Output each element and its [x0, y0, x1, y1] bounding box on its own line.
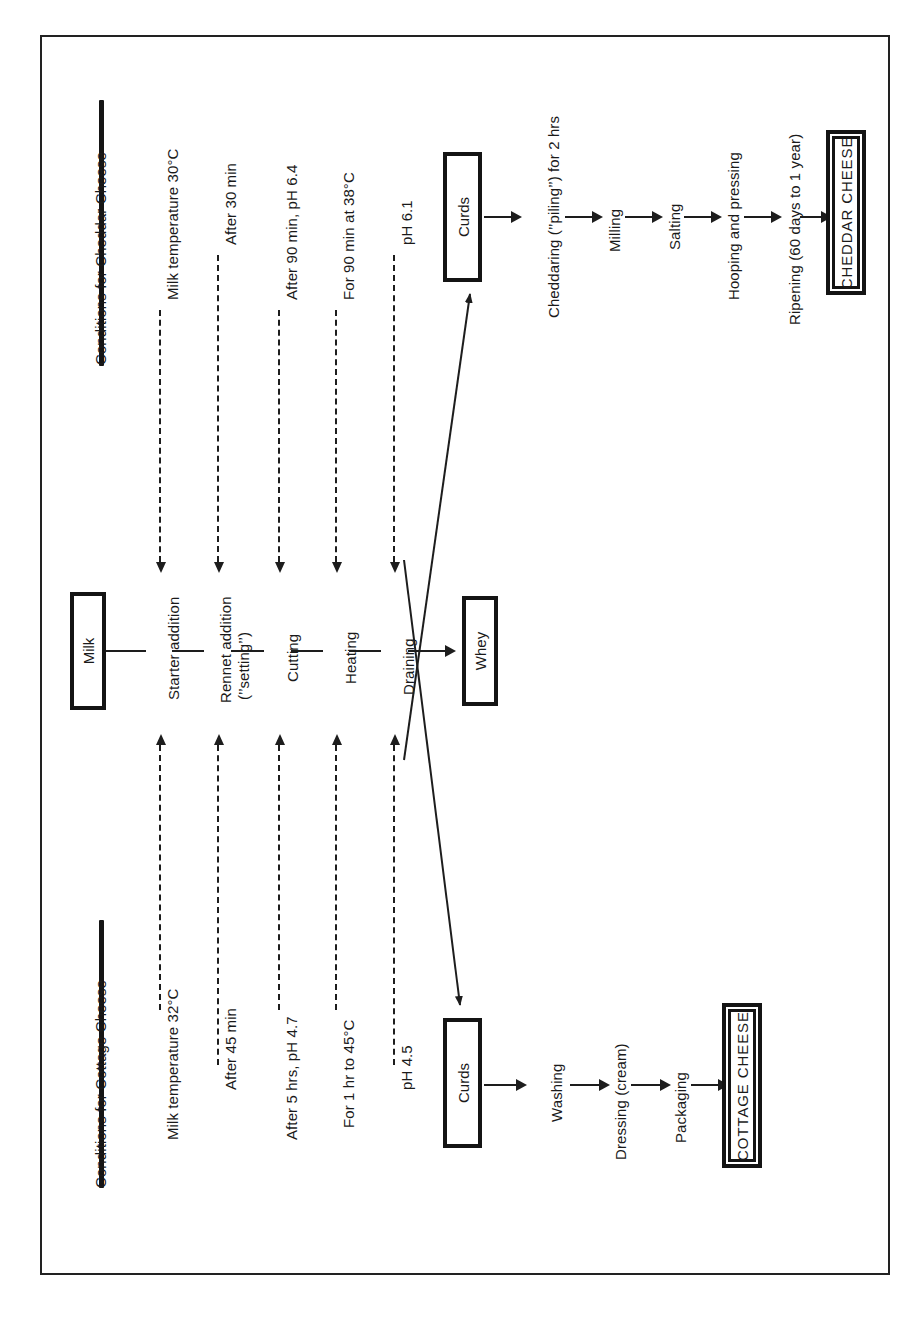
- cottage-condition-2: After 5 hrs, pH 4.7: [283, 1016, 302, 1140]
- cheddar-arrow-3: [684, 216, 712, 218]
- cottage-leader-2: [278, 745, 280, 1010]
- cheddar-leader-1: [217, 255, 219, 562]
- cottage-leader-3: [335, 745, 337, 1010]
- cottage-curds-box-label: Curds: [454, 1063, 471, 1103]
- milk-box-label: Milk: [80, 638, 97, 665]
- cottage-leader-1: [217, 745, 219, 1065]
- cottage-conditions-heading: Conditions for Cottage Cheese: [92, 980, 111, 1188]
- cheddar-arrow-5: [800, 216, 822, 218]
- cheddar-step-ripening: Ripening (60 days to 1 year): [786, 134, 805, 325]
- cottage-cheese-box: COTTAGE CHEESE: [722, 1003, 762, 1168]
- process-connector-0: [106, 650, 146, 652]
- cottage-condition-3: For 1 hr to 45°C: [340, 1020, 359, 1128]
- process-step-draining: Draining: [400, 638, 419, 695]
- cottage-curds-box: Curds: [443, 1018, 482, 1148]
- whey-box: Whey: [462, 596, 498, 706]
- cheddar-arrow-1: [565, 216, 593, 218]
- cheddar-cheese-box: CHEDDAR CHEESE: [826, 130, 866, 295]
- draining-to-whey-arrow: [408, 650, 446, 652]
- figure-page: Conditions for Cheddar Cheese Milk tempe…: [0, 0, 913, 1323]
- cheddar-leader-2: [278, 310, 280, 562]
- cheddar-arrow-4: [744, 216, 772, 218]
- cheddar-arrow-0: [484, 216, 512, 218]
- cheddar-condition-2: After 90 min, pH 6.4: [283, 165, 302, 300]
- cottage-cheese-box-label: COTTAGE CHEESE: [734, 1011, 751, 1161]
- process-step-rennet-addition: Rennet addition: [217, 596, 236, 703]
- cottage-arrow-2: [631, 1084, 661, 1086]
- cheddar-step-salting: Salting: [666, 203, 685, 250]
- cottage-arrow-3: [691, 1084, 719, 1086]
- process-step-heating: Heating: [342, 632, 361, 684]
- cottage-step-dressing: Dressing (cream): [612, 1043, 631, 1160]
- cheddar-curds-box-label: Curds: [454, 197, 471, 237]
- cheddar-leader-4: [393, 255, 395, 562]
- cheddar-cheese-box-label: CHEDDAR CHEESE: [838, 136, 855, 289]
- cheddar-condition-3: For 90 min at 38°C: [340, 172, 359, 300]
- milk-box: Milk: [70, 592, 106, 710]
- cheddar-leader-3: [335, 310, 337, 562]
- cottage-arrow-1: [570, 1084, 600, 1086]
- cheddar-condition-1: After 30 min: [222, 163, 241, 245]
- cheddar-step-cheddaring: Cheddaring (’’piling’’) for 2 hrs: [545, 116, 564, 318]
- cheddar-leader-0: [159, 310, 161, 562]
- cheddar-arrow-2: [625, 216, 653, 218]
- cottage-condition-1: After 45 min: [222, 1008, 241, 1090]
- cheddar-curds-box: Curds: [443, 152, 482, 282]
- process-step-rennet-setting: (’’setting’’): [235, 632, 254, 700]
- cottage-step-washing: Washing: [548, 1063, 567, 1122]
- cottage-leader-0: [159, 745, 161, 1010]
- cheddar-condition-0: Milk temperature 30°C: [164, 149, 183, 301]
- cheddar-step-milling: Milling: [606, 209, 625, 252]
- cottage-leader-4: [393, 745, 395, 1065]
- cheddar-condition-4: pH 6.1: [398, 200, 417, 245]
- process-step-starter-addition: Starter addition: [165, 597, 184, 700]
- whey-box-label: Whey: [472, 632, 489, 670]
- cottage-condition-4: pH 4.5: [398, 1045, 417, 1090]
- cottage-condition-0: Milk temperature 32°C: [164, 989, 183, 1141]
- cheddar-conditions-heading: Conditions for Cheddar Cheese: [92, 152, 111, 365]
- process-step-cutting: Cutting: [284, 634, 303, 682]
- cottage-arrow-0: [484, 1084, 517, 1086]
- cottage-step-packaging: Packaging: [672, 1072, 691, 1143]
- cheddar-step-hooping-pressing: Hooping and pressing: [725, 152, 744, 300]
